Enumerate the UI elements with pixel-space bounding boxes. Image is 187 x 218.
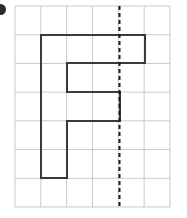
f-shaped-polygon xyxy=(41,35,145,178)
figure-canvas xyxy=(0,0,187,218)
grid-figure-svg xyxy=(0,0,187,218)
grid-lines xyxy=(15,6,170,207)
